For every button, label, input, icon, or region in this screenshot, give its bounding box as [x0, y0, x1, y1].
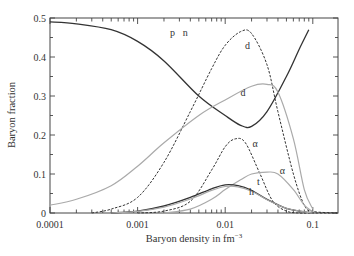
x-tick-label: 0.001	[126, 219, 149, 230]
curve-label: p	[170, 27, 175, 38]
curve-d	[92, 30, 337, 213]
x-tick-label: 0.0001	[36, 219, 64, 230]
axis-ticks	[50, 18, 338, 213]
axis-tick-labels: 0.00010.0010.010.100.10.20.30.40.5	[34, 13, 320, 231]
curve-α	[164, 172, 313, 213]
plot-border	[50, 18, 338, 213]
plot-frame	[50, 18, 338, 213]
curve-label: n	[183, 27, 188, 38]
curve-label: d	[241, 87, 246, 98]
x-tick-label: 0.1	[307, 219, 320, 230]
y-tick-label: 0.4	[34, 52, 47, 63]
y-axis-title: Baryon fraction	[6, 81, 17, 148]
curve-d	[50, 84, 313, 209]
y-tick-label: 0.2	[34, 130, 47, 141]
x-axis-title-exponent: −3	[235, 232, 243, 240]
x-tick-label: 0.01	[216, 219, 234, 230]
curve-label: α	[253, 138, 259, 149]
x-axis-title-main: Baryon density in fm	[146, 233, 235, 244]
curve-p-n	[50, 22, 309, 128]
y-tick-label: 0	[41, 208, 46, 219]
curve-label: d	[245, 40, 250, 51]
y-tick-label: 0.3	[34, 91, 47, 102]
data-curves	[50, 22, 337, 213]
curve-label: α	[280, 165, 286, 176]
baryon-fraction-chart: 0.00010.0010.010.100.10.20.30.40.5 pnddα…	[0, 0, 354, 256]
curve-label: t	[257, 176, 260, 187]
y-tick-label: 0.1	[34, 169, 47, 180]
x-axis-title: Baryon density in fm−3	[146, 232, 243, 244]
curve-label: h	[249, 186, 254, 197]
curve-α	[138, 138, 338, 213]
y-tick-label: 0.5	[34, 13, 47, 24]
